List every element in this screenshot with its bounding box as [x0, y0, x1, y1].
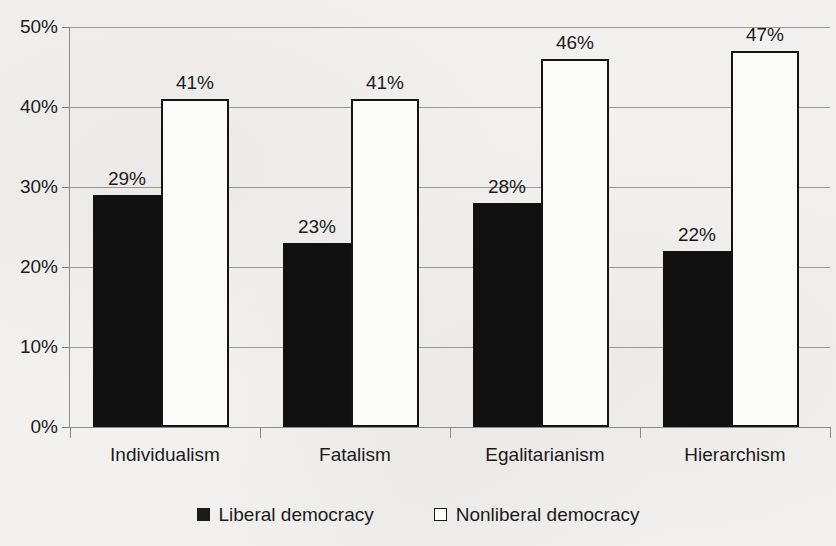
y-axis-tick-label: 0% — [0, 417, 58, 436]
x-tick — [830, 427, 831, 438]
bar-value-label: 22% — [651, 225, 743, 244]
grouped-bar-chart: 0%10%20%30%40%50% 29%41%23%41%28%46%22%4… — [0, 0, 836, 546]
x-axis-category-label-egalitarianism: Egalitarianism — [450, 444, 640, 466]
bar-value-label: 41% — [149, 73, 241, 92]
legend-swatch-filled-square-icon — [197, 508, 210, 521]
bar-individualism-nonliberal-democracy — [161, 99, 229, 427]
bar-value-label: 41% — [339, 73, 431, 92]
legend-label: Liberal democracy — [219, 505, 374, 524]
bar-value-label: 29% — [81, 169, 173, 188]
y-axis-tick-label: 20% — [0, 257, 58, 276]
legend-label: Nonliberal democracy — [456, 505, 640, 524]
bar-individualism-liberal-democracy — [93, 195, 161, 427]
bar-value-label: 46% — [529, 33, 621, 52]
bar-hierarchism-nonliberal-democracy — [731, 51, 799, 427]
bar-value-label: 28% — [461, 177, 553, 196]
y-axis-tick-label: 30% — [0, 177, 58, 196]
bar-egalitarianism-liberal-democracy — [473, 203, 541, 427]
x-tick — [260, 427, 261, 438]
x-tick — [450, 427, 451, 438]
bar-egalitarianism-nonliberal-democracy — [541, 59, 609, 427]
x-axis-category-label-individualism: Individualism — [70, 444, 260, 466]
bar-value-label: 47% — [719, 25, 811, 44]
bar-hierarchism-liberal-democracy — [663, 251, 731, 427]
legend-swatch-outlined-square-icon — [434, 508, 447, 521]
x-tick — [70, 427, 71, 438]
y-axis-tick-label: 40% — [0, 97, 58, 116]
x-axis-category-label-hierarchism: Hierarchism — [640, 444, 830, 466]
plot-area: 29%41%23%41%28%46%22%47% — [70, 27, 830, 427]
x-tick — [640, 427, 641, 438]
y-axis-tick-label: 10% — [0, 337, 58, 356]
y-axis-tick-label: 50% — [0, 17, 58, 36]
bar-fatalism-liberal-democracy — [283, 243, 351, 427]
x-axis-category-label-fatalism: Fatalism — [260, 444, 450, 466]
legend-item-liberal-democracy[interactable]: Liberal democracy — [197, 505, 374, 524]
legend-item-nonliberal-democracy[interactable]: Nonliberal democracy — [434, 505, 640, 524]
bar-fatalism-nonliberal-democracy — [351, 99, 419, 427]
bar-value-label: 23% — [271, 217, 363, 236]
chart-legend: Liberal democracyNonliberal democracy — [0, 505, 836, 524]
